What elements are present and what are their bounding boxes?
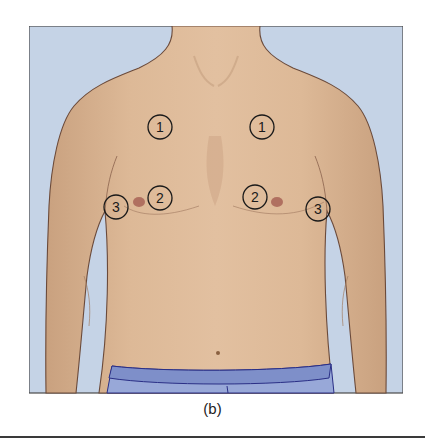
torso-illustration: 1 1 2 2 3 3: [29, 26, 403, 394]
svg-text:2: 2: [251, 189, 259, 205]
navel: [216, 351, 220, 355]
nipple-right: [133, 197, 145, 207]
figure-caption: (b): [0, 400, 425, 417]
svg-text:3: 3: [314, 201, 322, 217]
nipple-left: [271, 197, 283, 207]
svg-text:2: 2: [156, 190, 164, 206]
bottom-divider: [0, 436, 425, 438]
svg-text:1: 1: [156, 119, 164, 135]
svg-text:3: 3: [112, 199, 120, 215]
svg-text:1: 1: [258, 119, 266, 135]
